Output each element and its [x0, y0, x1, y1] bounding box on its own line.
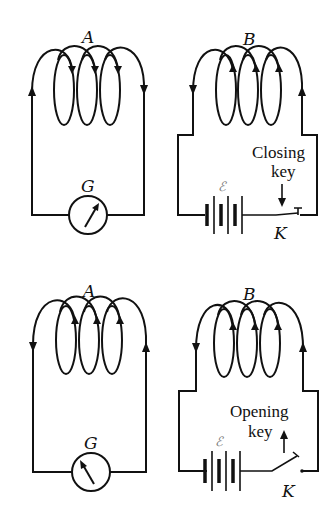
coil-a-label: A	[80, 27, 94, 47]
current-arrow-icon	[68, 66, 76, 74]
arrow-down-icon	[29, 342, 37, 352]
wire-right	[110, 345, 146, 472]
galvanometer-g	[69, 196, 107, 234]
galvanometer-label: G	[81, 176, 95, 196]
arrow-down-icon	[192, 343, 200, 353]
coil-b	[193, 46, 302, 125]
arrow-up-icon	[298, 86, 306, 96]
panel-top-right-primary-circuit: B ℰ	[178, 29, 317, 243]
induction-diagram: A G B	[0, 0, 335, 523]
arrow-down-icon	[189, 85, 197, 95]
coil-a	[33, 297, 146, 374]
wire-right	[107, 92, 144, 215]
wire-left	[178, 92, 205, 215]
wire-right	[303, 350, 318, 471]
wire-left	[33, 345, 72, 472]
coil-a	[32, 46, 144, 125]
battery-icon	[205, 451, 240, 491]
key-text-line2: key	[271, 162, 296, 181]
panel-bottom-left-secondary-circuit: A G	[29, 281, 150, 491]
panel-bottom-right-primary-circuit: B ℰ	[179, 284, 318, 501]
arrow-up-icon	[28, 86, 36, 96]
key-k-label: K	[273, 223, 288, 243]
arrow-up-icon	[299, 342, 307, 352]
arrow-up-icon	[142, 342, 150, 352]
needle-right-icon	[85, 208, 96, 227]
battery-icon	[207, 196, 242, 234]
opening-key-switch	[240, 452, 318, 473]
closing-key-switch	[242, 208, 317, 215]
coil-b	[196, 301, 303, 377]
wire-left	[179, 350, 207, 471]
arrow-down-icon	[140, 85, 148, 95]
panel-top-left-secondary-circuit: A G	[28, 27, 148, 234]
key-text-line2: key	[248, 422, 273, 441]
key-text-line1: Opening	[230, 402, 289, 421]
needle-left-icon	[83, 465, 94, 484]
emf-label: ℰ	[215, 434, 224, 449]
wire-left	[32, 92, 69, 215]
galvanometer-g	[72, 453, 110, 491]
galvanometer-label: G	[84, 433, 98, 453]
key-k-label: K	[281, 481, 296, 501]
emf-label: ℰ	[218, 179, 227, 194]
key-text-line1: Closing	[252, 143, 305, 162]
